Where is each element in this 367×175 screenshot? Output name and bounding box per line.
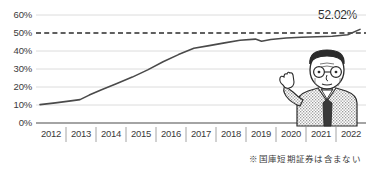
chart-canvas xyxy=(0,0,367,175)
x-tick-2014: 2014 xyxy=(96,128,126,139)
x-tick-2021: 2021 xyxy=(306,128,336,139)
line-chart: 60% 50% 40% 30% 20% 10% 0% 52.02% xyxy=(0,0,367,175)
x-tick-2015: 2015 xyxy=(126,128,156,139)
x-tick-2012: 2012 xyxy=(36,128,66,139)
x-tick-2017: 2017 xyxy=(186,128,216,139)
x-tick-2018: 2018 xyxy=(216,128,246,139)
footnote-text: ※国庫短期証券は含まない xyxy=(249,152,361,164)
businessman-illustration xyxy=(280,50,357,126)
x-tick-2020: 2020 xyxy=(276,128,306,139)
x-tick-2019: 2019 xyxy=(246,128,276,139)
x-tick-2013: 2013 xyxy=(66,128,96,139)
x-tick-2016: 2016 xyxy=(156,128,186,139)
x-tick-2022: 2022 xyxy=(336,128,366,139)
